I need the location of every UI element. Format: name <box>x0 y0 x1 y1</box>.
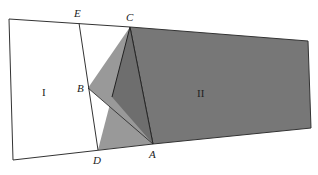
label-C: C <box>126 11 134 23</box>
label-A: A <box>148 148 156 160</box>
geometry-diagram: E C B D A I II <box>0 0 318 175</box>
label-B: B <box>77 82 84 94</box>
region-II-polygon <box>130 27 311 144</box>
label-E: E <box>73 7 81 19</box>
label-region-II: II <box>197 87 205 99</box>
label-region-I: I <box>42 86 46 98</box>
label-D: D <box>92 154 101 166</box>
